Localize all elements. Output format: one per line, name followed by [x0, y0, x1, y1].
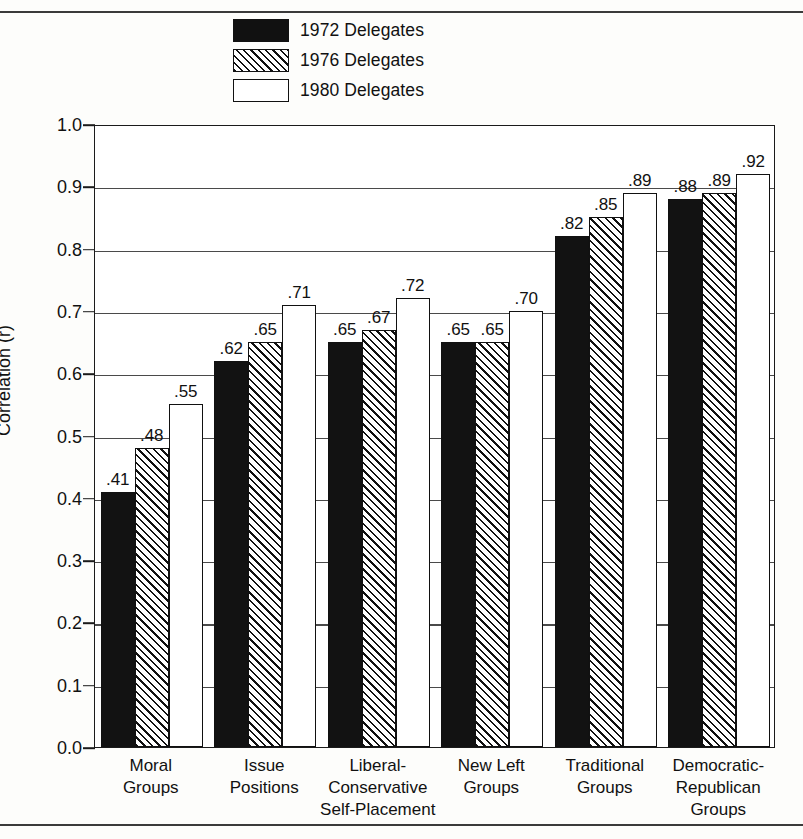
bar-value-label: .70	[514, 289, 538, 309]
y-tick-label: 0.7	[36, 301, 82, 322]
bar: .65	[248, 342, 282, 747]
bar: .65	[328, 342, 362, 747]
y-axis-title: Correlation (r)	[0, 325, 15, 436]
legend-swatch-1976	[233, 49, 289, 72]
legend-item: 1980 Delegates	[233, 79, 424, 102]
y-tick-label: 1.0	[36, 115, 82, 136]
x-category-label: Democratic-RepublicanGroups	[650, 755, 788, 820]
bar: .88	[668, 199, 702, 747]
bar-value-label: .72	[401, 276, 425, 296]
page-bottom-rule	[0, 824, 803, 826]
bar-group: .82.85.89	[555, 126, 657, 747]
bar: .67	[362, 330, 396, 747]
y-tick-label: 0.8	[36, 239, 82, 260]
y-tick-label: 0.6	[36, 364, 82, 385]
page-top-rule	[0, 11, 803, 13]
bar: .92	[736, 174, 770, 747]
bar-group: .65.65.70	[441, 126, 543, 747]
bar-value-label: .71	[287, 283, 311, 303]
y-tick-label: 0.4	[36, 488, 82, 509]
bar: .65	[475, 342, 509, 747]
y-tick-label: 0.5	[36, 426, 82, 447]
legend-swatch-1980	[233, 79, 289, 102]
legend-label-1972: 1972 Delegates	[300, 20, 424, 41]
y-tick-label: 0.1	[36, 675, 82, 696]
bar: .82	[555, 236, 589, 747]
x-category-line: Democratic-	[650, 755, 788, 777]
bar-value-label: .65	[333, 320, 357, 340]
bar: .72	[396, 298, 430, 747]
bar-value-label: .89	[628, 171, 652, 191]
bar: .71	[282, 305, 316, 747]
legend-swatch-1972	[233, 19, 289, 42]
x-category-line: Self-Placement	[309, 799, 447, 821]
y-tick-label: 0.2	[36, 613, 82, 634]
legend-label-1980: 1980 Delegates	[300, 80, 424, 101]
bar: .62	[214, 361, 248, 747]
bar: .41	[101, 492, 135, 747]
bar-value-label: .65	[446, 320, 470, 340]
bar: .55	[169, 404, 203, 747]
x-category-line: Groups	[650, 799, 788, 821]
bar-value-label: .55	[174, 382, 198, 402]
bar-value-label: .82	[560, 214, 584, 234]
y-tick-label: 0.3	[36, 551, 82, 572]
bar-value-label: .88	[673, 177, 697, 197]
chart-legend: 1972 Delegates 1976 Delegates 1980 Deleg…	[233, 19, 424, 102]
bar-value-label: .65	[480, 320, 504, 340]
bar: .65	[441, 342, 475, 747]
bar: .48	[135, 448, 169, 747]
bar-value-label: .62	[219, 339, 243, 359]
bar: .85	[589, 217, 623, 747]
x-category-line: Republican	[650, 777, 788, 799]
bar-value-label: .65	[253, 320, 277, 340]
bar-group: .62.65.71	[214, 126, 316, 747]
bar: .89	[623, 193, 657, 747]
legend-item: 1972 Delegates	[233, 19, 424, 42]
bar-value-label: .92	[741, 152, 765, 172]
bar-value-label: .41	[106, 470, 130, 490]
y-tick-label: 0.9	[36, 177, 82, 198]
bar-value-label: .48	[140, 426, 164, 446]
bar-group: .65.67.72	[328, 126, 430, 747]
bar-group: .88.89.92	[668, 126, 770, 747]
legend-label-1976: 1976 Delegates	[300, 50, 424, 71]
bar-group: .41.48.55	[101, 126, 203, 747]
bar-value-label: .89	[707, 171, 731, 191]
bar-value-label: .67	[367, 308, 391, 328]
legend-item: 1976 Delegates	[233, 49, 424, 72]
bar: .70	[509, 311, 543, 747]
bar: .89	[702, 193, 736, 747]
plot-area: .41.48.55.62.65.71.65.67.72.65.65.70.82.…	[94, 125, 775, 748]
bar-value-label: .85	[594, 195, 618, 215]
y-tick-label: 0.0	[36, 738, 82, 759]
